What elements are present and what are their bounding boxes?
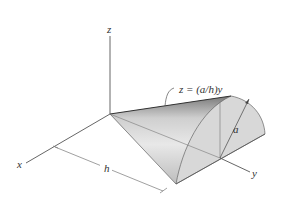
z-axis-label: z [106, 23, 112, 35]
y-axis-label: y [251, 167, 257, 179]
y-axis [220, 158, 250, 172]
half-cone-diagram: z x y z = (a/h)y h a [0, 0, 281, 208]
a-radius-label: a [233, 123, 239, 135]
surface-equation: z = (a/h)y [178, 83, 223, 96]
x-axis-label: x [16, 158, 22, 170]
x-axis [26, 114, 110, 163]
equation-leader [165, 88, 174, 106]
h-dimension-label: h [104, 162, 110, 174]
